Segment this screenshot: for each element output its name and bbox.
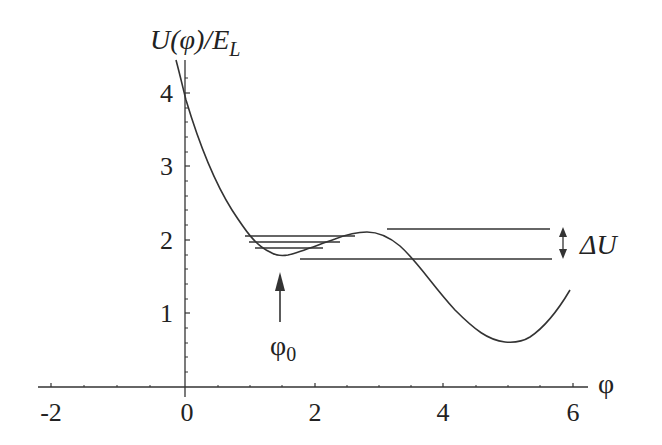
y-tick-label: 4 [160,79,173,108]
y-tick-label: 1 [160,299,173,328]
x-tick-label: -2 [40,398,62,427]
phi0-arrow-icon [275,272,285,322]
y-minor-ticks [185,78,188,372]
x-tick-label: 6 [567,398,580,427]
y-tick-label: 3 [160,152,173,181]
x-tick-label: 2 [309,398,322,427]
delta-u-label: ΔU [579,229,618,260]
y-major-ticks [185,93,190,313]
x-tick-label: 0 [181,398,194,427]
x-tick-label: 4 [437,398,450,427]
y-tick-label: 2 [160,226,173,255]
delta-u-arrow-icon [559,227,567,259]
potential-curve [176,60,570,342]
y-axis-title: U(φ)/EL [150,24,240,60]
x-axis-title: φ [598,368,614,399]
phi0-label: φ0 [270,330,296,365]
potential-energy-chart: -2 0 2 4 6 4 3 2 1 U(φ)/EL φ ΔU φ0 [0,0,662,445]
